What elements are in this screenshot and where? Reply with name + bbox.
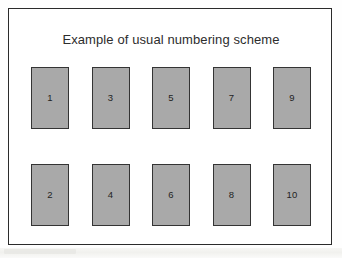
numbered-box-label: 7	[229, 93, 234, 103]
numbered-box: 6	[152, 164, 190, 226]
numbered-box-label: 8	[229, 190, 234, 200]
numbering-row-top: 1 3 5 7 9	[31, 67, 311, 129]
numbered-box: 5	[152, 67, 190, 129]
numbered-box-label: 4	[108, 190, 113, 200]
scan-artifact-blotch	[4, 249, 76, 254]
numbered-box-label: 5	[168, 93, 173, 103]
numbered-box-label: 3	[108, 93, 113, 103]
figure-frame: Example of usual numbering scheme 1 3 5 …	[8, 8, 332, 245]
numbered-box-label: 2	[47, 190, 52, 200]
numbered-box-label: 10	[287, 190, 298, 200]
numbered-box: 7	[213, 67, 251, 129]
numbered-box: 4	[92, 164, 130, 226]
numbered-box-label: 6	[168, 190, 173, 200]
numbered-box: 9	[273, 67, 311, 129]
numbered-box: 1	[31, 67, 69, 129]
numbered-box: 2	[31, 164, 69, 226]
numbered-box: 10	[273, 164, 311, 226]
figure-canvas: Example of usual numbering scheme 1 3 5 …	[0, 0, 342, 258]
numbering-row-bottom: 2 4 6 8 10	[31, 164, 311, 226]
numbered-box: 8	[213, 164, 251, 226]
numbering-grid: 1 3 5 7 9 2 4	[31, 67, 311, 227]
numbered-box: 3	[92, 67, 130, 129]
numbered-box-label: 9	[289, 93, 294, 103]
figure-title: Example of usual numbering scheme	[9, 32, 333, 48]
numbered-box-label: 1	[47, 93, 52, 103]
